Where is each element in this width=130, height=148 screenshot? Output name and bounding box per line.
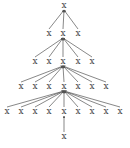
tree-edge xyxy=(63,38,78,57)
tree-edge xyxy=(63,10,64,29)
tree-edge xyxy=(63,66,64,82)
tree-node: x xyxy=(75,28,80,38)
tree-node: x xyxy=(60,28,65,38)
tree-node: x xyxy=(46,56,51,66)
tree-edge xyxy=(63,38,92,57)
tree-edge xyxy=(64,10,78,29)
tree-edge xyxy=(21,91,64,107)
tree-node: x xyxy=(61,131,66,141)
tree-node: x xyxy=(32,56,37,66)
tree-node: x xyxy=(46,28,51,38)
tree-edge xyxy=(63,66,78,82)
tree-edge xyxy=(7,91,64,107)
tree-node: x xyxy=(46,106,51,116)
tree-node: x xyxy=(117,106,122,116)
tree-node: x xyxy=(46,81,51,91)
tree-node: x xyxy=(18,81,23,91)
tree-node: x xyxy=(4,106,9,116)
tree-edge xyxy=(35,66,63,82)
tree-diagram: xxxxxxxxxxxxxxxxxxxxxxxxxx xyxy=(0,0,130,148)
tree-edge xyxy=(21,66,63,82)
tree-node: x xyxy=(103,106,108,116)
tree-node: x xyxy=(89,56,94,66)
tree-node: x xyxy=(75,81,80,91)
tree-node: x xyxy=(32,106,37,116)
tree-edge xyxy=(64,91,92,107)
tree-node: x xyxy=(89,106,94,116)
tree-node: x xyxy=(61,81,66,91)
tree-edge xyxy=(63,66,92,82)
tree-edge xyxy=(64,91,120,107)
tree-node: x xyxy=(60,56,65,66)
tree-edge xyxy=(49,38,63,57)
tree-node: x xyxy=(18,106,23,116)
tree-edge xyxy=(35,38,63,57)
tree-edge xyxy=(64,91,106,107)
tree-node: x xyxy=(32,81,37,91)
tree-node: x xyxy=(75,56,80,66)
tree-edge xyxy=(63,66,106,82)
tree-node: x xyxy=(89,81,94,91)
tree-node: x xyxy=(61,106,66,116)
tree-edge xyxy=(49,10,64,29)
tree-node: x xyxy=(103,81,108,91)
tree-edge xyxy=(35,91,64,107)
tree-node: x xyxy=(75,106,80,116)
tree-node: x xyxy=(61,0,66,10)
